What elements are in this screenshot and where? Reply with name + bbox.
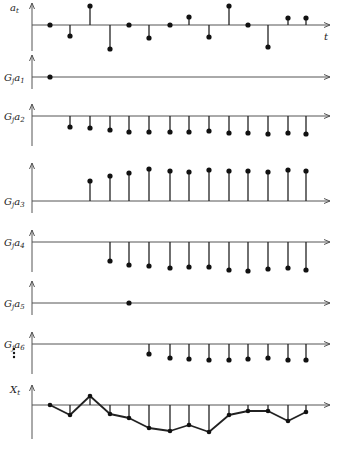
data-point xyxy=(88,394,93,399)
data-point xyxy=(227,413,232,418)
data-point xyxy=(126,22,131,27)
data-point xyxy=(167,168,172,173)
data-point xyxy=(107,258,112,263)
data-point xyxy=(126,262,131,267)
panel-a: att xyxy=(10,2,330,52)
panel-label: at xyxy=(10,2,19,15)
data-point xyxy=(245,268,250,273)
data-point xyxy=(87,178,92,183)
data-point xyxy=(146,166,151,171)
panel-g2: Gja2 xyxy=(4,104,330,146)
data-point xyxy=(206,167,211,172)
data-point xyxy=(186,169,191,174)
data-point xyxy=(186,356,191,361)
data-point xyxy=(304,410,309,415)
panel-label: Gja5 xyxy=(4,298,25,311)
data-point xyxy=(265,44,270,49)
data-point xyxy=(206,357,211,362)
stem-plot-figure: attGja1Gja2Gja3Gja4Gja5Gja6Xt xyxy=(0,0,340,450)
panel-label: Gja3 xyxy=(4,196,25,209)
data-point xyxy=(167,22,172,27)
data-point xyxy=(87,3,92,8)
ellipsis-icon xyxy=(13,348,15,358)
data-point xyxy=(265,266,270,271)
data-point xyxy=(303,267,308,272)
data-point xyxy=(245,22,250,27)
data-point xyxy=(126,300,131,305)
data-point xyxy=(127,416,132,421)
data-point xyxy=(285,265,290,270)
data-point xyxy=(285,357,290,362)
panel-label: Gja1 xyxy=(4,72,25,85)
data-point xyxy=(147,426,152,431)
data-point xyxy=(226,3,231,8)
data-point xyxy=(47,74,52,79)
data-point xyxy=(186,14,191,19)
data-point xyxy=(206,34,211,39)
data-point xyxy=(68,413,73,418)
data-point xyxy=(245,130,250,135)
data-point xyxy=(245,356,250,361)
panel-g4: Gja4 xyxy=(4,230,330,274)
data-point xyxy=(107,46,112,51)
data-point xyxy=(107,127,112,132)
panel-x: Xt xyxy=(9,384,330,439)
data-point xyxy=(207,430,212,435)
data-point xyxy=(186,264,191,269)
panels-group: attGja1Gja2Gja3Gja4Gja5Gja6Xt xyxy=(4,2,330,439)
data-point xyxy=(226,267,231,272)
data-point xyxy=(206,128,211,133)
data-point xyxy=(265,131,270,136)
data-point xyxy=(285,167,290,172)
data-point xyxy=(146,263,151,268)
data-point xyxy=(286,419,291,424)
panel-g3: Gja3 xyxy=(4,163,330,213)
data-point xyxy=(167,265,172,270)
data-point xyxy=(87,125,92,130)
panel-g5: Gja5 xyxy=(4,281,330,315)
data-point xyxy=(246,409,251,414)
data-point xyxy=(303,131,308,136)
panel-label: Gja2 xyxy=(4,111,25,124)
series-line xyxy=(50,396,306,432)
panel-label: Gja4 xyxy=(4,237,25,250)
data-point xyxy=(285,130,290,135)
data-point xyxy=(47,22,52,27)
data-point xyxy=(67,33,72,38)
data-point xyxy=(226,130,231,135)
data-point xyxy=(285,15,290,20)
panel-g1: Gja1 xyxy=(4,55,330,89)
data-point xyxy=(107,173,112,178)
data-point xyxy=(206,264,211,269)
data-point xyxy=(226,168,231,173)
panel-g6: Gja6 xyxy=(4,332,330,374)
data-point xyxy=(226,357,231,362)
data-point xyxy=(266,409,271,414)
data-point xyxy=(303,15,308,20)
data-point xyxy=(187,423,192,428)
data-point xyxy=(303,357,308,362)
data-point xyxy=(126,129,131,134)
data-point xyxy=(146,129,151,134)
data-point xyxy=(167,355,172,360)
data-point xyxy=(146,351,151,356)
data-point xyxy=(186,129,191,134)
data-point xyxy=(168,429,173,434)
data-point xyxy=(265,355,270,360)
data-point xyxy=(67,124,72,129)
data-point xyxy=(126,170,131,175)
data-point xyxy=(108,412,113,417)
data-point xyxy=(265,169,270,174)
data-point xyxy=(146,35,151,40)
data-point xyxy=(167,129,172,134)
data-point xyxy=(303,168,308,173)
data-point xyxy=(245,168,250,173)
time-axis-label: t xyxy=(324,31,329,42)
panel-label: Xt xyxy=(9,384,20,397)
data-point xyxy=(48,403,53,408)
